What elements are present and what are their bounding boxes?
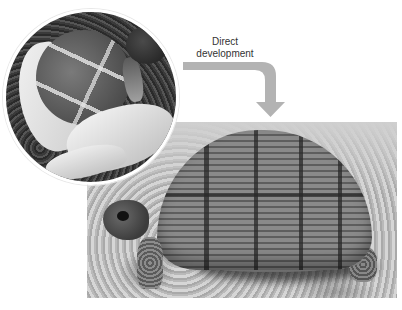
tortoise-front-leg xyxy=(137,237,163,289)
tortoise-eye xyxy=(117,211,129,221)
caption-line-2: development xyxy=(185,48,265,60)
tortoise-head xyxy=(103,200,149,240)
direct-development-caption: Direct development xyxy=(185,36,265,60)
caption-line-1: Direct xyxy=(185,36,265,48)
hatchling-head xyxy=(126,26,168,64)
hatchling-photo xyxy=(3,9,179,185)
